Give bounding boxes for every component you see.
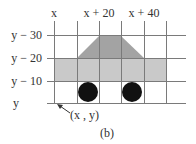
x-label-40: x + 40 — [129, 6, 160, 20]
figure-caption: (b) — [100, 126, 114, 140]
car-grid-diagram: x x + 20 x + 40 y − 30 y − 20 y − 10 y (… — [0, 0, 196, 144]
y-label-10: y − 10 — [11, 74, 42, 88]
y-label-30: y − 30 — [11, 28, 42, 42]
x-label-20: x + 20 — [84, 6, 115, 20]
y-label-20: y − 20 — [11, 51, 42, 65]
x-label-0: x — [51, 6, 57, 20]
car-body-rectangle — [54, 58, 166, 81]
rear-wheel-circle — [122, 82, 142, 102]
front-wheel-circle — [78, 82, 98, 102]
origin-label: (x , y) — [70, 108, 99, 122]
car-roof-trapezoid — [77, 36, 144, 58]
origin-arrow-icon — [57, 104, 70, 113]
y-label-0: y — [13, 96, 19, 110]
